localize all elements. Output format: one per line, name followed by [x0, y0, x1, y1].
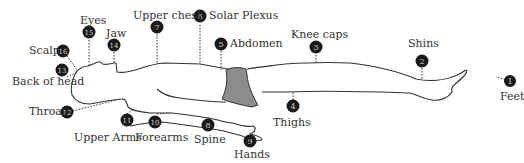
svg-text:3: 3: [313, 43, 318, 52]
svg-text:15: 15: [85, 29, 94, 37]
marker-10: 10: [149, 116, 162, 129]
marker-3: 3: [310, 41, 323, 54]
svg-text:4: 4: [290, 102, 295, 111]
svg-text:14: 14: [110, 42, 119, 50]
body-outline: [71, 62, 467, 141]
label-back-of-head: Back of head: [12, 76, 84, 87]
label-throat: Throat: [29, 106, 66, 117]
label-solar-plexus: Solar Plexus: [209, 10, 278, 21]
label-hands: Hands: [234, 149, 270, 160]
marker-4: 4: [287, 100, 300, 113]
svg-text:5: 5: [218, 40, 223, 49]
label-abdomen: Abdomen: [230, 38, 283, 49]
label-spine: Spine: [194, 134, 226, 145]
label-upper-chest: Upper chest: [133, 10, 201, 21]
svg-text:10: 10: [151, 119, 160, 127]
marker-9: 9: [244, 135, 257, 148]
label-eyes: Eyes: [80, 15, 106, 26]
shorts-shape: [222, 68, 258, 107]
svg-text:11: 11: [123, 117, 132, 125]
svg-text:1: 1: [507, 77, 512, 86]
label-feet: Feet: [500, 91, 524, 102]
svg-text:7: 7: [154, 23, 159, 32]
label-scalp: Scalp: [29, 45, 60, 56]
marker-15: 15: [83, 26, 96, 39]
marker-11: 11: [121, 114, 134, 127]
label-thighs: Thighs: [273, 117, 311, 128]
svg-text:2: 2: [419, 57, 424, 66]
svg-text:13: 13: [58, 67, 67, 75]
marker-8: 8: [202, 119, 215, 132]
label-jaw: Jaw: [106, 28, 126, 39]
marker-1: 1: [504, 75, 516, 87]
label-knee-caps: Knee caps: [291, 29, 348, 40]
label-upper-arms: Upper Arms: [74, 132, 142, 143]
label-shins: Shins: [408, 38, 439, 49]
marker-14: 14: [108, 39, 121, 52]
marker-7: 7: [151, 21, 164, 34]
svg-text:8: 8: [205, 121, 210, 130]
svg-text:9: 9: [247, 137, 252, 146]
label-forearms: Forearms: [135, 132, 188, 143]
marker-5: 5: [215, 38, 228, 51]
marker-2: 2: [416, 55, 429, 68]
svg-text:16: 16: [59, 48, 68, 56]
